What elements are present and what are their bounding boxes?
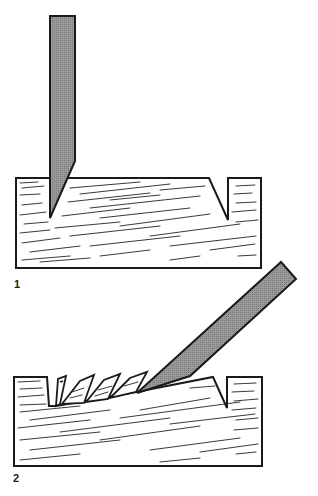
- figure-2: [14, 262, 296, 466]
- figure-label-2: 2: [13, 472, 19, 484]
- woodworking-diagram: [0, 0, 318, 496]
- chisel-angled: [137, 262, 296, 393]
- figure-1: [16, 16, 261, 268]
- figure-label-1: 1: [14, 278, 20, 290]
- wood-block-2: [14, 377, 262, 466]
